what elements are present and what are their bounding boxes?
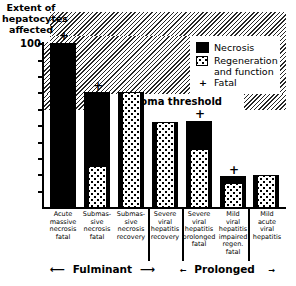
fulminant-label: Fulminant [73, 263, 132, 275]
bar-regeneration-severe-recovery [157, 123, 174, 207]
y-tick [38, 76, 43, 78]
x-label-mild-acute: Mild acute viral hepatitis [249, 211, 285, 241]
x-label-submassive-recovery: Submas- sive necrosis recovery [113, 211, 149, 241]
arrow-left-icon: ← [180, 266, 187, 275]
x-label-line: fatal [181, 241, 217, 249]
x-label-severe-prolonged-fatal: Severe viral hepatitis prolonged fatal [181, 211, 217, 249]
group-divider [148, 207, 150, 261]
y-axis-label-line: hepatocytes [2, 13, 60, 24]
y-tick [38, 174, 43, 176]
hatched-region-axis [43, 42, 50, 94]
x-label-mild-impaired-fatal: Mild viral hepatitis impaired regen. fat… [215, 211, 251, 256]
legend-label-fatal: Fatal [214, 78, 237, 88]
prolonged-label: Prolonged [194, 263, 255, 275]
fatal-marker: + [59, 30, 69, 42]
y-tick [38, 109, 43, 111]
coma-threshold-label: Coma threshold [133, 96, 222, 107]
y-tick [38, 191, 43, 193]
arrow-left-icon: ⟵ [50, 263, 65, 275]
y-axis-label-line: Extent of [2, 2, 60, 13]
legend-label-necrosis: Necrosis [214, 43, 254, 53]
group-divider [248, 207, 250, 261]
bar-necrosis-acute-massive [50, 43, 76, 207]
group-label-fulminant: ⟵ Fulminant ⟶ [50, 263, 155, 275]
x-label-submassive-fatal: Submas- sive necrosis fatal [79, 211, 115, 241]
legend: Necrosis Regeneration and function + Fat… [190, 36, 280, 92]
group-label-prolonged: ← Prolonged → [180, 263, 275, 275]
hatched-region-right [280, 36, 286, 94]
bar-regeneration-submassive-fatal [89, 167, 106, 207]
bar-regeneration-submassive-recovery [123, 93, 140, 207]
legend-label-regeneration: Regeneration [214, 56, 278, 66]
y-axis-label: Extent of hepatocytes affected [2, 2, 60, 35]
fatal-marker: + [93, 80, 103, 92]
group-divider [182, 207, 184, 261]
x-label-line: fatal [215, 249, 251, 257]
y-tick [38, 142, 43, 144]
x-label-line: fatal [79, 234, 115, 242]
x-label-line: hepatitis [249, 234, 285, 242]
x-label-line: fatal [45, 234, 81, 242]
bar-regeneration-mild-acute [258, 176, 275, 207]
legend-label-regeneration-2: and function [214, 67, 274, 77]
y-tick [38, 43, 43, 45]
y-axis-label-line: affected [2, 24, 60, 35]
x-label-line: recovery [113, 234, 149, 242]
arrow-right-icon: → [269, 266, 276, 275]
fatal-marker: + [229, 164, 239, 176]
arrow-right-icon: ⟶ [140, 263, 155, 275]
fatal-marker: + [195, 108, 205, 120]
x-label-line: recovery [147, 234, 183, 242]
legend-swatch-necrosis [196, 42, 209, 53]
bar-regeneration-severe-prolonged-fatal [191, 150, 208, 207]
legend-swatch-regeneration [196, 56, 208, 66]
y-tick [38, 158, 43, 160]
y-tick [38, 125, 43, 127]
x-label-acute-massive: Acute massive necrosis fatal [45, 211, 81, 241]
hatched-region-top [50, 12, 286, 36]
x-label-severe-recovery: Severe viral hepatitis recovery [147, 211, 183, 241]
hatched-region-bottom-right [244, 94, 286, 110]
y-tick [38, 92, 43, 94]
legend-fatal-symbol: + [199, 78, 207, 88]
y-tick [38, 60, 43, 62]
bar-regeneration-mild-impaired-fatal [225, 184, 242, 207]
